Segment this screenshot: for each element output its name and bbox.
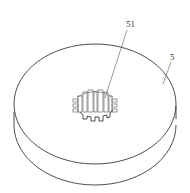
splined-hub: [73, 90, 117, 121]
leader-line-51: [105, 30, 127, 98]
hub-tooth: [78, 96, 82, 112]
hub-tab-left-1: [73, 99, 78, 102]
hub-bore-arc: [77, 92, 113, 98]
hub-tab-right-1: [112, 99, 117, 102]
hub-tab-right-2: [112, 104, 117, 107]
hub-tooth: [88, 90, 93, 112]
hub-tooth: [109, 96, 112, 112]
hub-tab-left-3: [73, 109, 78, 112]
hub-tooth: [98, 90, 103, 112]
hub-tab-left-2: [73, 104, 78, 107]
disc-top-face: [14, 44, 176, 164]
label-51: 51: [126, 19, 135, 29]
disc-bottom-edge: [14, 125, 176, 185]
disc-drawing: 51 5: [0, 0, 190, 193]
hub-tooth: [94, 92, 97, 112]
label-5: 5: [170, 52, 175, 62]
hub-tooth: [83, 92, 87, 112]
